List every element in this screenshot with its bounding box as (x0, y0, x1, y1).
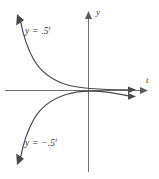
upper-curve-start-arrowhead-icon (16, 14, 24, 26)
upper-curve-equation-base: y = .5 (25, 26, 49, 36)
lower-curve-equation-base: y = −.5 (25, 138, 55, 148)
t-axis (5, 87, 148, 94)
lower-curve-equation-exponent: t (55, 136, 57, 143)
lower-curve-group (16, 91, 136, 165)
t-axis-arrowhead-icon (140, 87, 148, 94)
upper-curve-equation-label: y = .5t (25, 27, 51, 37)
y-axis-arrowhead-icon (85, 11, 92, 19)
t-axis-label: t (146, 76, 149, 85)
plot-canvas (0, 0, 159, 179)
lower-curve-equation-label: y = −.5t (25, 139, 57, 149)
lower-curve-start-arrowhead-icon (16, 154, 24, 166)
exponential-decay-figure: t y y = .5t y = −.5t (0, 0, 159, 179)
y-axis-label: y (96, 8, 100, 17)
lower-curve-end-arrowhead-icon (128, 93, 136, 100)
upper-curve-end-arrowhead-icon (128, 86, 136, 93)
upper-curve-equation-exponent: t (49, 24, 51, 31)
